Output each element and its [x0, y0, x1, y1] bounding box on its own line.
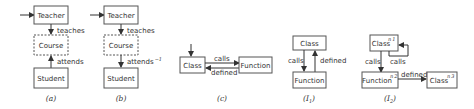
edge-teaches-label: teaches: [127, 27, 155, 35]
panel-c: Class calls defined Function (c): [180, 44, 272, 103]
panel-a: Teacher teaches Course attends Student (…: [20, 6, 85, 103]
edge-teaches-label: teaches: [57, 27, 85, 35]
caption-i2: (I2): [384, 94, 396, 104]
node-class-label: Class: [300, 40, 319, 48]
edge-defined-label: defined: [320, 57, 346, 65]
node-student-label: Student: [107, 75, 135, 83]
edge-calls-label: calls: [214, 55, 230, 63]
caption-i1: (I1): [303, 94, 315, 104]
node-n2-id: n2: [390, 73, 397, 79]
node-teacher-label: Teacher: [36, 12, 64, 20]
edge-attends-label: attends: [57, 58, 84, 66]
panel-b: Teacher teaches Course attends−1 Student…: [90, 6, 162, 103]
diagram-canvas: Teacher teaches Course attends Student (…: [0, 0, 474, 109]
node-teacher-label: Teacher: [106, 12, 134, 20]
node-n3-id: n3: [447, 73, 454, 79]
node-course-label: Course: [39, 42, 63, 50]
node-student-label: Student: [37, 75, 65, 83]
edge-defined-label: defined: [211, 69, 237, 77]
node-course-label: Course: [109, 42, 133, 50]
node-n3-label: Class: [430, 77, 449, 85]
caption-a: (a): [46, 94, 56, 103]
edge-attends-label: attends−1: [127, 56, 162, 66]
edge-defined-label: defined: [401, 71, 427, 79]
edge-calls-label: calls: [365, 58, 381, 66]
caption-b: (b): [116, 94, 127, 103]
node-n1-id: n1: [388, 36, 395, 42]
caption-c: (c): [217, 94, 227, 103]
panel-i1: Class calls defined Function (I1): [288, 36, 346, 104]
node-function-label: Function: [295, 77, 325, 85]
node-n2-label: Function: [362, 77, 392, 85]
edge-self-calls-label: calls: [390, 58, 406, 66]
panel-i2: Class n1 calls calls Function n2 defined…: [362, 35, 457, 104]
edge-calls-label: calls: [288, 57, 304, 65]
node-function-label: Function: [241, 62, 271, 70]
node-class-label: Class: [183, 62, 202, 70]
